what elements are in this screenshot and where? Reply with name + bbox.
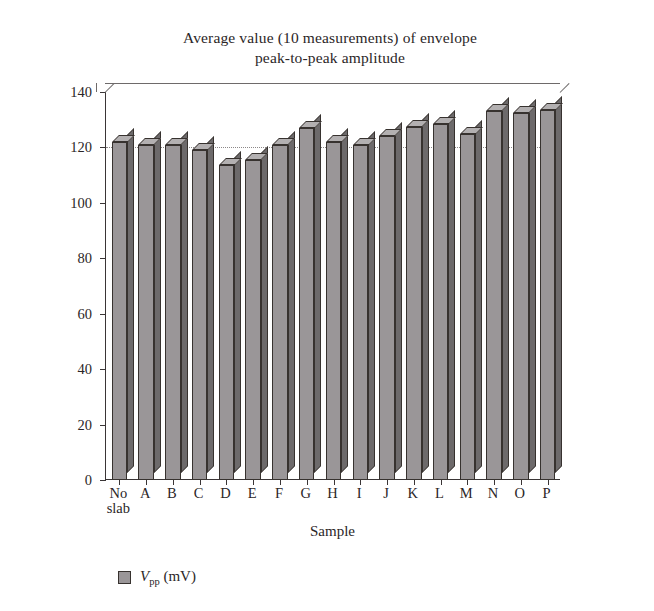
bar-front-face <box>112 142 128 480</box>
bar-side-face <box>314 114 321 473</box>
bar <box>245 160 261 480</box>
bar-front-face <box>486 111 502 480</box>
legend-symbol: V <box>140 568 149 584</box>
legend-subscript: pp <box>149 576 160 587</box>
bar-front-face <box>299 128 315 480</box>
bar-front-face <box>353 145 369 480</box>
bar-side-face <box>288 131 295 473</box>
y-tick-label: 40 <box>44 362 92 376</box>
bar <box>353 145 369 480</box>
bar-front-face <box>379 136 395 480</box>
plot-back-panel-left <box>96 83 105 480</box>
y-tick-label: 120 <box>44 140 92 154</box>
bar-side-face <box>234 151 241 473</box>
bars-layer <box>106 92 561 480</box>
bar-front-face <box>245 160 261 480</box>
y-tick-label: 0 <box>44 473 92 487</box>
y-tick-label: 140 <box>44 85 92 99</box>
legend: Vpp (mV) <box>118 568 196 587</box>
y-tick-label: 60 <box>44 307 92 321</box>
bar-front-face <box>540 110 556 480</box>
bar-side-face <box>261 146 268 473</box>
bar-side-face <box>341 128 348 473</box>
x-tick-label-line: slab <box>92 501 146 516</box>
x-tick-label-line: P <box>520 486 574 501</box>
chart-title-line-2: peak-to-peak amplitude <box>110 48 550 68</box>
bar <box>486 111 502 480</box>
y-tick-label: 80 <box>44 251 92 265</box>
bar-side-face <box>475 120 482 473</box>
bar <box>138 145 154 480</box>
bar <box>513 113 529 480</box>
axis-depth-line <box>560 83 570 93</box>
legend-unit: (mV) <box>160 568 196 584</box>
bar <box>460 134 476 480</box>
bar-side-face <box>448 110 455 473</box>
bar-front-face <box>272 145 288 480</box>
bar-front-face <box>326 142 342 480</box>
bar-side-face <box>181 131 188 473</box>
bar-front-face <box>138 145 154 480</box>
chart-title: Average value (10 measurements) of envel… <box>110 28 550 68</box>
x-axis-title: Sample <box>105 523 560 540</box>
y-tick-label: 100 <box>44 196 92 210</box>
bar <box>272 145 288 480</box>
x-tick-label: P <box>520 486 574 501</box>
bar <box>540 110 556 480</box>
bar <box>326 142 342 480</box>
plot-back-panel-top <box>105 83 560 92</box>
bar-front-face <box>219 165 235 480</box>
bar-side-face <box>368 131 375 473</box>
bar <box>406 127 422 480</box>
bar-front-face <box>513 113 529 480</box>
bar <box>379 136 395 480</box>
bar-front-face <box>192 150 208 480</box>
plot-area: Voltage (mV) 020406080100120140 <box>105 92 560 480</box>
bar-side-face <box>154 131 161 473</box>
bar-side-face <box>127 128 134 473</box>
bar-front-face <box>433 124 449 480</box>
bar <box>165 145 181 480</box>
y-tick-label: 20 <box>44 418 92 432</box>
legend-label-vpp: Vpp (mV) <box>140 568 196 587</box>
bar-side-face <box>395 122 402 473</box>
bar <box>219 165 235 480</box>
legend-swatch-vpp <box>118 571 131 584</box>
bar <box>299 128 315 480</box>
chart-title-line-1: Average value (10 measurements) of envel… <box>110 28 550 48</box>
bar <box>192 150 208 480</box>
bar <box>112 142 128 480</box>
bar-front-face <box>460 134 476 480</box>
bar-side-face <box>529 99 536 473</box>
bar-side-face <box>422 113 429 473</box>
bar-side-face <box>207 136 214 473</box>
bar-side-face <box>555 96 562 473</box>
bar-front-face <box>165 145 181 480</box>
chart-figure: Average value (10 measurements) of envel… <box>0 0 654 611</box>
bar-front-face <box>406 127 422 480</box>
bar-side-face <box>502 97 509 473</box>
bar <box>433 124 449 480</box>
y-tick-mark <box>100 480 106 481</box>
